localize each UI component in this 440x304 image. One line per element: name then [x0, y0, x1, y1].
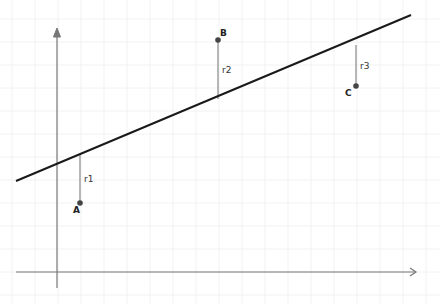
- residual-label: r3: [360, 61, 369, 71]
- point-label: C: [345, 88, 352, 98]
- background-grid: [0, 0, 440, 304]
- point-label: B: [220, 28, 227, 38]
- residual-lines: r1r2r3: [80, 40, 369, 203]
- point-b-marker: [215, 37, 221, 43]
- residual-label: r2: [222, 65, 231, 75]
- regression-line: [16, 15, 411, 181]
- residual-label: r1: [84, 174, 93, 184]
- regression-diagram: r1r2r3 ABC: [0, 0, 440, 304]
- point-label: A: [73, 205, 80, 215]
- y-axis-arrow-icon: [54, 28, 61, 37]
- data-points: ABC: [73, 28, 359, 215]
- point-c-marker: [353, 83, 359, 89]
